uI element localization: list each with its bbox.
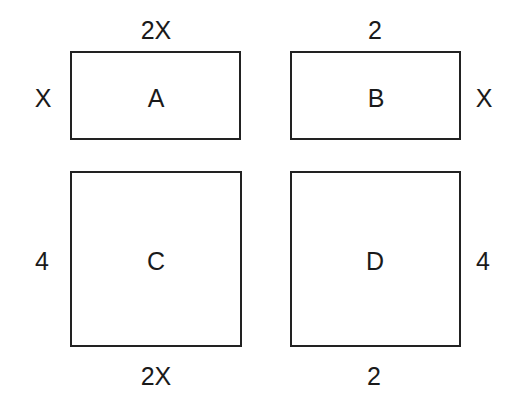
rectangle-c-bottom-dimension: 2X — [141, 364, 172, 389]
rectangle-b-right-dimension: X — [476, 86, 493, 111]
rectangle-a-left-dimension: X — [35, 86, 52, 111]
rectangle-d-bottom-dimension: 2 — [367, 364, 381, 389]
rectangle-a-top-dimension: 2X — [141, 18, 172, 43]
rectangle-c-left-dimension: 4 — [35, 249, 49, 274]
rectangle-b-label: B — [368, 86, 385, 111]
rectangle-a-label: A — [148, 86, 165, 111]
rectangle-d-label: D — [366, 249, 384, 274]
rectangle-d-right-dimension: 4 — [476, 249, 490, 274]
rectangle-b-top-dimension: 2 — [368, 18, 382, 43]
rectangle-c-label: C — [147, 249, 165, 274]
